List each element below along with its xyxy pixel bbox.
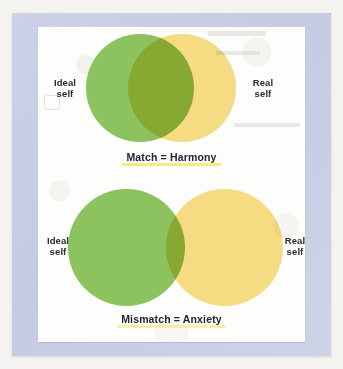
caption-anxiety-text: Mismatch = Anxiety [121, 313, 222, 325]
venn-circles-harmony: Ideal self Real self [38, 33, 305, 151]
ideal-self-label: Ideal self [38, 235, 78, 257]
real-self-label: Real self [274, 235, 305, 257]
caption-harmony: Match = Harmony [122, 151, 220, 166]
real-self-label: Real self [238, 77, 288, 99]
venn-diagram-anxiety: Ideal self Real self Mismatch = Anxiety [38, 187, 305, 339]
real-self-circle [128, 34, 236, 142]
caption-anxiety: Mismatch = Anxiety [117, 313, 226, 328]
figure-sheet: Ideal self Real self Match = Harmony Ide… [38, 27, 305, 342]
scanned-page: Ideal self Real self Match = Harmony Ide… [0, 0, 343, 369]
highlighter-underline [122, 163, 220, 166]
caption-harmony-text: Match = Harmony [126, 151, 216, 163]
ideal-self-label: Ideal self [42, 77, 88, 99]
caption-row-anxiety: Mismatch = Anxiety [38, 309, 305, 328]
venn-diagram-harmony: Ideal self Real self Match = Harmony [38, 33, 305, 181]
venn-circles-anxiety: Ideal self Real self [38, 187, 305, 305]
figure-frame: Ideal self Real self Match = Harmony Ide… [12, 13, 331, 356]
real-self-circle [166, 189, 283, 306]
highlighter-underline [117, 325, 226, 328]
caption-row-harmony: Match = Harmony [38, 147, 305, 166]
